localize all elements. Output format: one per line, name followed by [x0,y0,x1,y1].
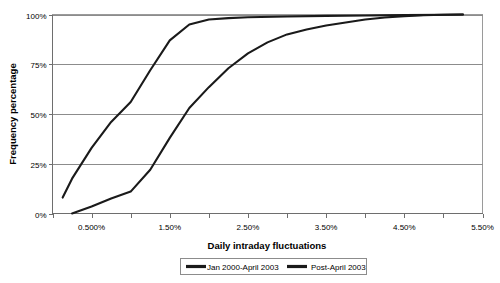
series-line-1 [63,15,463,198]
x-tick-label: 0.500% [78,223,105,232]
legend-label-1: Post-April 2003 [311,263,366,272]
y-axis-title: Frequency percentage [7,63,18,164]
legend-label-0: Jan 2000-April 2003 [207,263,279,272]
x-tick-label: 4.50% [393,223,416,232]
x-tick-label: 3.50% [315,223,338,232]
x-tick-label: 1.50% [158,223,181,232]
chart-legend: Jan 2000-April 2003 Post-April 2003 [181,259,367,275]
line-chart: 0%25%50%75%100% 0.500%1.50%2.50%3.50%4.5… [0,0,500,283]
y-axis-ticks: 0%25%50%75%100% [26,12,52,220]
x-tick-label: 2.50% [237,223,260,232]
x-axis-title: Daily intraday fluctuations [208,240,327,251]
chart-container: 0%25%50%75%100% 0.500%1.50%2.50%3.50%4.5… [0,0,500,283]
y-tick-label: 25% [30,161,46,170]
y-tick-label: 100% [26,12,46,21]
x-axis-ticks: 0.500%1.50%2.50%3.50%4.50%5.50% [54,214,494,232]
x-tick-label: 5.50% [471,223,494,232]
y-tick-label: 0% [35,211,47,220]
y-tick-label: 75% [30,61,46,70]
grid-lines [53,16,483,165]
y-tick-label: 50% [30,111,46,120]
